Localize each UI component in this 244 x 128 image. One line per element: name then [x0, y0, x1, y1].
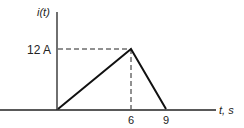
- x-axis-label: t, s: [219, 104, 234, 116]
- current-waveform: [58, 49, 166, 109]
- chart-plot: [0, 0, 244, 128]
- x-tick-6: 6: [128, 114, 134, 126]
- y-axis-label: i(t): [37, 6, 50, 18]
- y-tick-12a: 12 A: [27, 43, 51, 57]
- x-tick-9: 9: [163, 114, 169, 126]
